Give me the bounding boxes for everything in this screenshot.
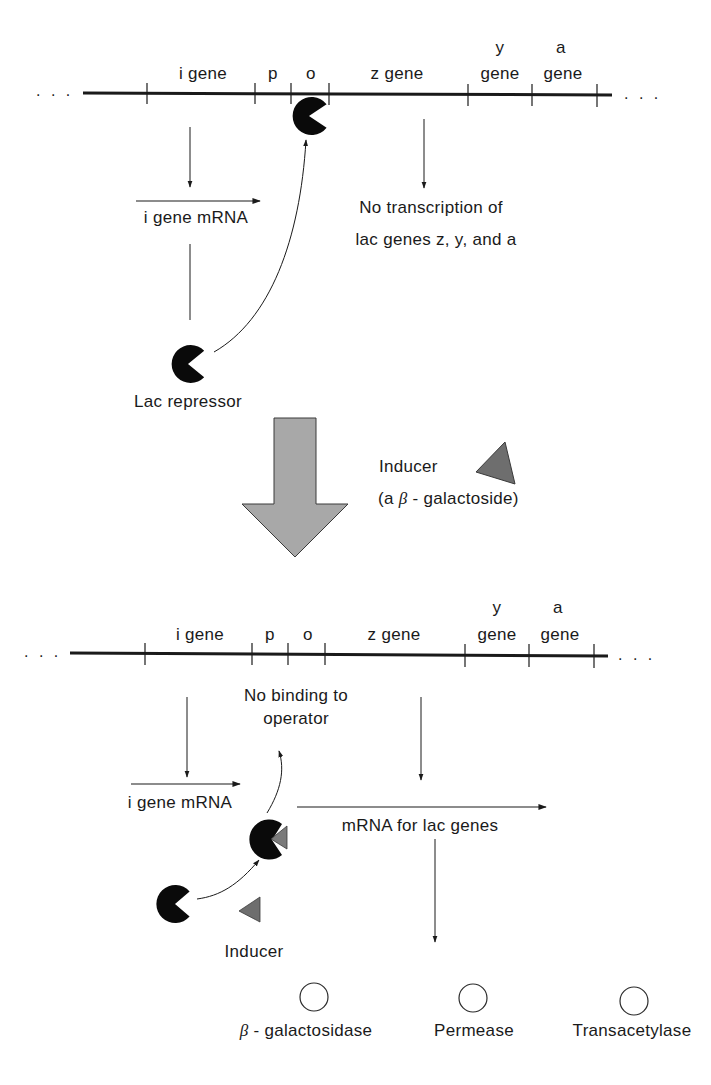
bottom-label-a-gene: gene: [540, 625, 579, 645]
bottom-label-y-top: y: [493, 598, 502, 618]
beta-galactosidase-icon: [300, 983, 328, 1011]
lac-operon-diagram: [0, 0, 711, 1085]
bottom-label-a-top: a: [553, 598, 563, 618]
beta-symbol: β: [399, 489, 408, 508]
lac-repressor-label: Lac repressor: [134, 392, 242, 412]
top-label-i-gene: i gene: [179, 64, 227, 84]
top-dna-strand: [83, 83, 612, 107]
top-dna-left-ellipsis: . . .: [36, 82, 73, 100]
permease-icon: [459, 984, 487, 1012]
bottom-label-y-gene: gene: [477, 625, 516, 645]
protein-label-transacetylase: Transacetylase: [573, 1021, 692, 1041]
free-inducer-triangle-icon: [239, 897, 260, 922]
protein-name: - galactosidase: [248, 1021, 372, 1040]
protein-label-beta-galactosidase: β - galactosidase: [240, 1021, 373, 1041]
repressor-binding-arrow: [214, 140, 306, 352]
top-label-a-top: a: [556, 38, 566, 58]
no-binding-line1: No binding to: [244, 686, 348, 706]
bottom-label-p: p: [265, 625, 275, 645]
failed-binding-arrow: [267, 751, 282, 813]
bottom-i-mrna-label: i gene mRNA: [128, 793, 232, 813]
transacetylase-icon: [620, 987, 648, 1015]
inducer-triangle-icon: [476, 442, 515, 484]
bottom-dna-right-ellipsis: . . .: [618, 646, 655, 664]
top-label-a-gene: gene: [543, 64, 582, 84]
top-dna-right-ellipsis: . . .: [624, 85, 661, 103]
inducer-sublabel: (a β - galactoside): [378, 489, 519, 509]
lac-mrna-label: mRNA for lac genes: [342, 816, 499, 836]
free-repressor-icon: [156, 885, 189, 923]
beta-symbol: β: [240, 1021, 249, 1040]
no-binding-line2: operator: [263, 709, 329, 729]
protein-label-permease: Permease: [434, 1021, 514, 1041]
inducer-sublabel-suffix: - galactoside): [408, 489, 519, 508]
bottom-label-z-gene: z gene: [368, 625, 421, 645]
top-label-o: o: [306, 64, 316, 84]
top-label-p: p: [268, 64, 278, 84]
bound-repressor-icon: [293, 97, 327, 135]
top-label-y-top: y: [496, 38, 505, 58]
bottom-label-i-gene: i gene: [176, 625, 224, 645]
inducer-sublabel-prefix: (a: [378, 489, 399, 508]
no-transcription-line2: lac genes z, y, and a: [356, 230, 517, 250]
top-label-y-gene: gene: [480, 64, 519, 84]
top-i-mrna-label: i gene mRNA: [144, 208, 248, 228]
bottom-label-o: o: [303, 625, 313, 645]
top-label-z-gene: z gene: [371, 64, 424, 84]
bottom-inducer-label: Inducer: [225, 942, 284, 962]
inducer-binding-arrow: [197, 860, 259, 899]
lac-repressor-icon: [172, 345, 205, 383]
bottom-dna-left-ellipsis: . . .: [24, 643, 61, 661]
no-transcription-line1: No transcription of: [359, 198, 503, 218]
inducer-label: Inducer: [379, 457, 438, 477]
induction-big-arrow-icon: [242, 418, 348, 557]
bottom-dna-strand: [70, 643, 608, 668]
